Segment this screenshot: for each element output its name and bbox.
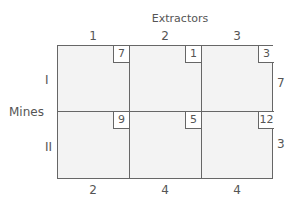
- diagram-title: Extractors: [140, 12, 220, 25]
- supply-row-2: 3: [277, 137, 285, 151]
- row-label-1: I: [45, 73, 49, 87]
- cost-box: 7: [113, 46, 129, 63]
- cell-r1-c3: 3: [202, 46, 274, 112]
- column-label-1: 1: [57, 29, 129, 43]
- demand-col-2: 4: [129, 183, 201, 197]
- cell-r1-c2: 1: [130, 46, 202, 112]
- cost-box: 9: [113, 112, 129, 129]
- cost-box: 1: [185, 46, 201, 63]
- demand-col-1: 2: [57, 183, 129, 197]
- cost-box: 5: [185, 112, 201, 129]
- transport-table: 7 1 3 9 5 12: [57, 45, 273, 179]
- cell-r2-c3: 12: [202, 112, 274, 178]
- column-label-3: 3: [201, 29, 273, 43]
- cost-box: 12: [258, 112, 274, 129]
- column-label-2: 2: [129, 29, 201, 43]
- cost-box: 3: [258, 46, 274, 63]
- demand-col-3: 4: [201, 183, 273, 197]
- cell-r1-c1: 7: [58, 46, 130, 112]
- cell-r2-c1: 9: [58, 112, 130, 178]
- cell-r2-c2: 5: [130, 112, 202, 178]
- row-label-2: II: [45, 140, 52, 154]
- row-axis-label: Mines: [9, 105, 44, 119]
- supply-row-1: 7: [277, 76, 285, 90]
